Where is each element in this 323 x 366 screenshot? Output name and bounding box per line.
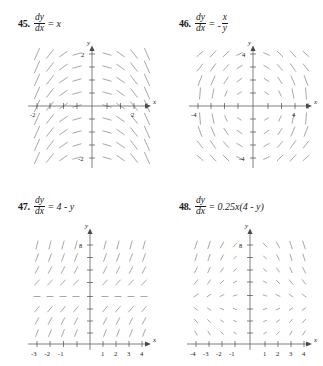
problem-46-xtick--4: -4 bbox=[191, 111, 197, 118]
problem-48-svg: x y -4 -3 -2 -1 1 2 3 4 8 bbox=[185, 225, 319, 360]
problem-45-number: 45. bbox=[18, 13, 34, 29]
problem-47-xtick--2: -2 bbox=[45, 350, 51, 357]
problem-47-numerator: dy bbox=[34, 196, 45, 206]
problem-47-x-axis-label: x bbox=[152, 336, 157, 344]
problem-46-rhs-numerator: x bbox=[222, 13, 228, 23]
problem-47-axes bbox=[28, 229, 151, 351]
problem-45-ytick-2: 2 bbox=[81, 51, 84, 58]
problem-46-axes bbox=[189, 46, 312, 169]
problem-48-xtick--1: -1 bbox=[229, 350, 235, 357]
problem-47-header: 47. dy dx = 4 - y bbox=[18, 196, 74, 217]
problem-47-denominator: dx bbox=[34, 206, 45, 217]
problem-46-rhs-fraction: x y bbox=[222, 13, 228, 34]
problem-48-derivative-fraction: dy dx bbox=[195, 196, 206, 217]
problem-47-xtick-3: 3 bbox=[127, 350, 131, 357]
problem-47-xtick--1: -1 bbox=[58, 350, 64, 357]
problem-48-y-arrow bbox=[247, 229, 252, 235]
problem-48-number: 48. bbox=[179, 196, 195, 212]
problem-47-xtick-4: 4 bbox=[140, 350, 144, 357]
problem-46-rhs-denominator: y bbox=[222, 23, 228, 34]
problem-47-x-arrow bbox=[145, 341, 151, 346]
problem-48-xtick-4: 4 bbox=[302, 350, 306, 357]
problem-45-xtick-2: 2 bbox=[131, 111, 134, 118]
problem-45-ytick--2: -2 bbox=[78, 155, 84, 162]
problem-47: 47. dy dx = 4 - y bbox=[0, 183, 161, 366]
problem-48-xtick--3: -3 bbox=[203, 350, 209, 357]
problem-48-xtick-3: 3 bbox=[289, 350, 293, 357]
problem-47-rhs: 4 - y bbox=[57, 196, 75, 212]
problem-48-xtick-1: 1 bbox=[263, 350, 266, 357]
problem-45: 45. dy dx = x bbox=[0, 0, 161, 183]
problem-45-numerator: dy bbox=[34, 13, 45, 23]
problem-46-x-arrow bbox=[306, 103, 312, 108]
problem-48-x-arrow bbox=[306, 341, 312, 346]
problem-46-xtick-4: 4 bbox=[292, 111, 296, 118]
problem-47-xtick-1: 1 bbox=[101, 350, 104, 357]
problem-47-ytick-8: 8 bbox=[79, 242, 83, 249]
problem-45-y-axis-label: y bbox=[86, 42, 91, 47]
problem-48-numerator: dy bbox=[195, 196, 206, 206]
problem-47-y-axis-label: y bbox=[84, 225, 89, 230]
problem-46-numerator: dy bbox=[195, 13, 206, 23]
problem-48-ytick-8: 8 bbox=[239, 242, 243, 249]
problem-48-axes bbox=[187, 229, 312, 351]
problem-48-rhs: 0.25x(4 - y) bbox=[218, 196, 264, 212]
problem-45-y-arrow bbox=[89, 46, 94, 52]
problem-47-number: 47. bbox=[18, 196, 34, 212]
problem-48-equals: = bbox=[206, 196, 218, 212]
problem-46-ytick-4: 4 bbox=[242, 51, 246, 58]
problem-46-derivative-fraction: dy dx bbox=[195, 13, 206, 34]
problem-48-slope-field: x y -4 -3 -2 -1 1 2 3 4 8 bbox=[185, 225, 319, 360]
problem-48-y-axis-label: y bbox=[244, 225, 249, 230]
problem-48-xtick--4: -4 bbox=[190, 350, 196, 357]
problem-48-xtick-2: 2 bbox=[276, 350, 279, 357]
problem-46-header: 46. dy dx = - x y bbox=[179, 13, 228, 34]
problem-46-number: 46. bbox=[179, 13, 195, 29]
problem-48-xtick--2: -2 bbox=[216, 350, 222, 357]
problem-45-svg: x y -2 2 2 -2 bbox=[26, 42, 158, 174]
problem-47-slope-field: x y -3 -2 -1 1 2 3 4 8 bbox=[26, 225, 158, 360]
problem-46: 46. dy dx = - x y bbox=[161, 0, 322, 183]
textbook-page: 45. dy dx = x bbox=[0, 0, 323, 366]
problem-46-x-axis-label: x bbox=[313, 98, 318, 106]
problem-47-field-segments bbox=[34, 241, 148, 337]
problem-48-denominator: dx bbox=[195, 206, 206, 217]
problem-45-denominator: dx bbox=[34, 23, 45, 34]
problem-46-rhs: - x y bbox=[218, 13, 229, 34]
problem-46-slope-field: x y -4 4 4 -4 bbox=[187, 42, 319, 174]
problem-47-equals: = bbox=[45, 196, 57, 212]
problem-47-xtick--3: -3 bbox=[31, 350, 37, 357]
problem-45-derivative-fraction: dy dx bbox=[34, 13, 45, 34]
problem-47-xtick-2: 2 bbox=[114, 350, 117, 357]
problem-45-equals: = bbox=[45, 13, 57, 29]
problem-47-svg: x y -3 -2 -1 1 2 3 4 8 bbox=[26, 225, 158, 360]
problem-48: 48. dy dx = 0.25x(4 - y) bbox=[161, 183, 322, 366]
problem-45-rhs: x bbox=[57, 13, 61, 29]
problem-45-header: 45. dy dx = x bbox=[18, 13, 61, 34]
problem-45-slope-field: x y -2 2 2 -2 bbox=[26, 42, 158, 174]
problem-46-svg: x y -4 4 4 -4 bbox=[187, 42, 319, 174]
problem-47-derivative-fraction: dy dx bbox=[34, 196, 45, 217]
problem-46-equals: = bbox=[206, 13, 218, 29]
problem-45-x-axis-label: x bbox=[152, 98, 157, 106]
problem-45-xtick--2: -2 bbox=[30, 111, 36, 118]
problem-46-y-arrow bbox=[250, 46, 255, 52]
problem-46-ytick--4: -4 bbox=[239, 155, 245, 162]
problem-46-denominator: dx bbox=[195, 23, 206, 34]
problem-47-y-arrow bbox=[87, 229, 92, 235]
problem-48-header: 48. dy dx = 0.25x(4 - y) bbox=[179, 196, 264, 217]
problem-48-x-axis-label: x bbox=[313, 336, 318, 344]
problem-46-y-axis-label: y bbox=[247, 42, 252, 47]
